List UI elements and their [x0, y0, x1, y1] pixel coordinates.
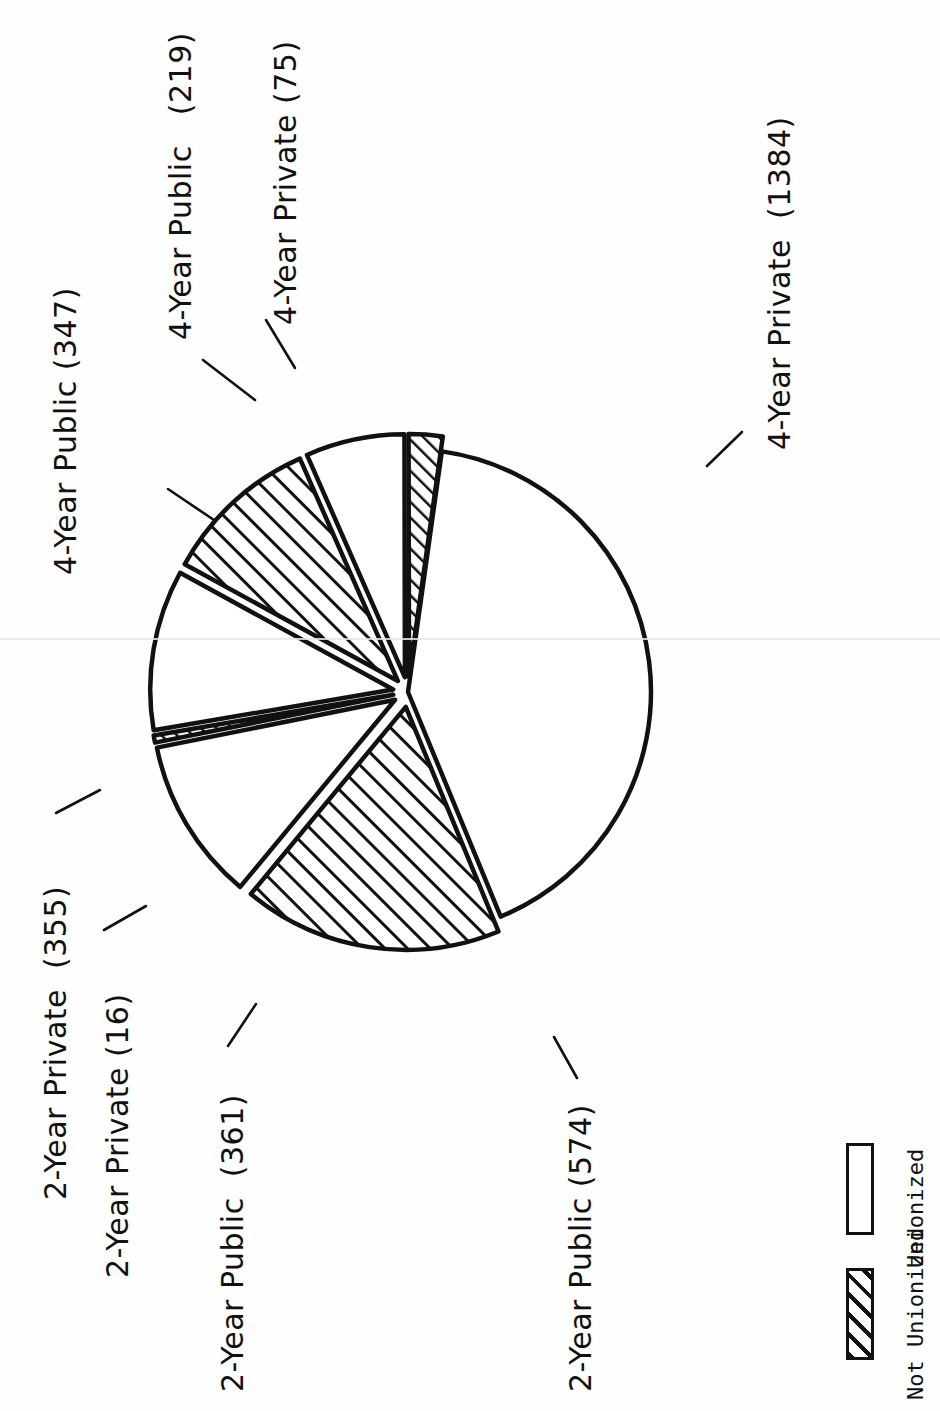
- legend-swatch-unionized: [846, 1268, 874, 1360]
- legend-label-not-unionized: Not Unionized: [903, 1228, 928, 1400]
- pie-chart-svg: [0, 0, 940, 1411]
- slice-label-4-year-private-75: 4-Year Private (75): [268, 40, 303, 325]
- slice-label-2-year-public-361: 2-Year Public (361): [215, 1094, 250, 1392]
- slice-label-2-year-private-355: 2-Year Private (355): [38, 886, 73, 1200]
- pie-chart-figure: 4-Year Public (347) 4-Year Public (219) …: [0, 0, 940, 1411]
- legend-swatch-not-unionized: [846, 1143, 874, 1235]
- slice-label-4-year-public-219: 4-Year Public (219): [163, 32, 198, 340]
- pie-slices-group: [150, 434, 651, 950]
- slice-label-2-year-public-574: 2-Year Public (574): [563, 1104, 598, 1392]
- slice-label-4-year-private-1384: 4-Year Private (1384): [762, 116, 797, 450]
- slice-label-4-year-public-347: 4-Year Public (347): [48, 287, 83, 575]
- slice-label-2-year-private-16: 2-Year Private (16): [100, 993, 135, 1278]
